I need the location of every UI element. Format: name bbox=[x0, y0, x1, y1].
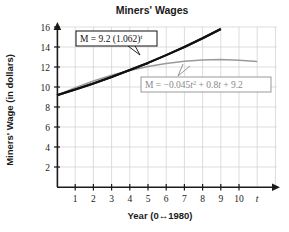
x-tick-label: 3 bbox=[109, 194, 114, 204]
x-axis-title: Year (0↔1980) bbox=[128, 210, 193, 221]
x-tick-label: 4 bbox=[127, 194, 132, 204]
chart-gridlines bbox=[57, 27, 277, 187]
exponential-equation-text: M = 9.2 (1.062)t bbox=[80, 33, 143, 46]
y-tick-label: 14 bbox=[41, 43, 51, 53]
miners-wages-chart: 2 4 6 8 10 12 14 16 1 2 3 4 5 6 7 8 9 10… bbox=[0, 0, 289, 232]
x-tick-label: 6 bbox=[164, 194, 169, 204]
quadratic-equation-annotation: M = −0.045t2 + 0.8t + 9.2 bbox=[141, 64, 271, 92]
y-axis-arrow bbox=[54, 22, 62, 30]
y-tick-label: 2 bbox=[45, 163, 50, 173]
x-tick-label: 10 bbox=[234, 194, 244, 204]
y-tick-label: 6 bbox=[45, 123, 50, 133]
y-tick-label: 12 bbox=[41, 63, 51, 73]
y-tick-labels: 2 4 6 8 10 12 14 16 bbox=[41, 23, 51, 173]
x-axis-variable-label: t bbox=[256, 194, 259, 204]
y-tick-label: 16 bbox=[41, 23, 51, 33]
x-tick-label: 2 bbox=[91, 194, 96, 204]
x-tick-label: 5 bbox=[146, 194, 151, 204]
x-tick-label: 7 bbox=[182, 194, 187, 204]
exponential-equation-annotation: M = 9.2 (1.062)t bbox=[76, 31, 157, 55]
chart-axes bbox=[57, 30, 272, 187]
x-tick-label: 1 bbox=[73, 194, 78, 204]
y-tick-label: 10 bbox=[41, 83, 51, 93]
x-tick-label: 9 bbox=[218, 194, 223, 204]
chart-title: Miners' Wages bbox=[116, 4, 189, 16]
y-tick-label: 4 bbox=[45, 143, 50, 153]
x-tick-label: 8 bbox=[200, 194, 205, 204]
x-tick-labels: 1 2 3 4 5 6 7 8 9 10 t bbox=[73, 194, 259, 204]
y-tick-label: 8 bbox=[45, 103, 50, 113]
y-axis-title: Miners' Wage (in dollars) bbox=[4, 54, 15, 166]
chart-figure: 2 4 6 8 10 12 14 16 1 2 3 4 5 6 7 8 9 10… bbox=[0, 0, 289, 232]
x-axis-arrow bbox=[272, 183, 280, 191]
